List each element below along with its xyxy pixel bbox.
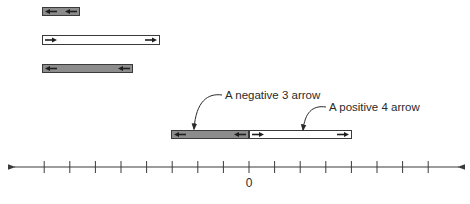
callout-positive: A positive 4 arrow xyxy=(303,101,420,130)
number-line-diagram: A negative 3 arrowA positive 4 arrow 0 xyxy=(0,0,470,204)
leader-line xyxy=(194,95,222,129)
callout-label: A negative 3 arrow xyxy=(225,89,321,101)
callouts: A negative 3 arrowA positive 4 arrow xyxy=(194,89,420,130)
number-line: 0 xyxy=(14,161,459,190)
origin-label: 0 xyxy=(246,176,253,190)
callout-negative: A negative 3 arrow xyxy=(194,89,321,129)
bar-1 xyxy=(43,8,80,16)
leader-line xyxy=(303,107,326,130)
bar-pos4 xyxy=(250,131,352,139)
callout-label: A positive 4 arrow xyxy=(329,101,420,113)
bar-2 xyxy=(43,36,160,45)
bar-3 xyxy=(43,65,133,73)
bar-neg3 xyxy=(172,131,249,139)
